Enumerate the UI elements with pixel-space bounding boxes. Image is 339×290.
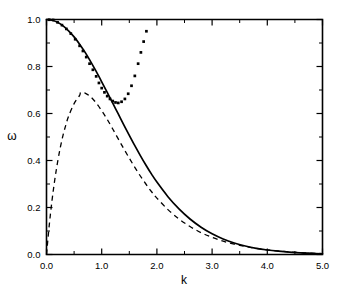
y-tick-label: 0.0 bbox=[27, 249, 40, 260]
data-point bbox=[65, 28, 68, 31]
y-tick-label: 0.8 bbox=[27, 61, 40, 72]
data-point bbox=[52, 19, 55, 22]
x-tick-label: 3.0 bbox=[205, 260, 218, 271]
data-point bbox=[48, 18, 51, 21]
data-point bbox=[114, 101, 117, 104]
data-point bbox=[140, 51, 143, 54]
data-point bbox=[130, 84, 133, 87]
data-point bbox=[124, 98, 127, 101]
axis-frame-path bbox=[47, 20, 323, 255]
data-point bbox=[109, 98, 112, 101]
data-point bbox=[95, 75, 98, 78]
data-point bbox=[74, 38, 77, 41]
data-point bbox=[85, 56, 88, 59]
data-point bbox=[145, 30, 148, 33]
x-tick-label: 4.0 bbox=[261, 260, 274, 271]
x-tick-label: 0.0 bbox=[40, 260, 53, 271]
data-point bbox=[92, 68, 95, 71]
data-point bbox=[98, 82, 101, 85]
series-layer bbox=[47, 18, 323, 254]
y-axis-tick-labels: 0.00.20.40.60.81.0 bbox=[27, 14, 40, 260]
data-point bbox=[82, 50, 85, 53]
plot-canvas: 0.01.02.03.04.05.0 0.00.20.40.60.81.0 k … bbox=[0, 0, 339, 290]
x-axis-minor-ticks bbox=[74, 20, 295, 255]
chart-figure: 0.01.02.03.04.05.0 0.00.20.40.60.81.0 k … bbox=[0, 0, 339, 290]
x-axis-title: k bbox=[181, 273, 188, 287]
y-tick-label: 1.0 bbox=[27, 14, 40, 25]
data-point bbox=[103, 91, 106, 94]
data-point bbox=[111, 100, 114, 103]
x-tick-label: 5.0 bbox=[316, 260, 329, 271]
y-tick-label: 0.6 bbox=[27, 108, 40, 119]
y-axis-title: ω bbox=[7, 129, 16, 143]
data-point bbox=[56, 21, 59, 24]
dotted-points-series bbox=[48, 18, 148, 104]
x-axis-major-ticks bbox=[47, 20, 323, 255]
data-point bbox=[117, 102, 120, 105]
y-tick-label: 0.2 bbox=[27, 202, 40, 213]
axes-frame bbox=[47, 20, 323, 255]
dashed-curve bbox=[47, 92, 323, 254]
y-tick-label: 0.4 bbox=[27, 155, 40, 166]
data-point bbox=[88, 62, 91, 65]
x-axis-tick-labels: 0.01.02.03.04.05.0 bbox=[40, 260, 329, 271]
data-point bbox=[100, 87, 103, 90]
data-point bbox=[142, 40, 145, 43]
y-axis-major-ticks bbox=[47, 20, 323, 255]
data-point bbox=[69, 32, 72, 35]
data-point bbox=[78, 44, 81, 47]
solid-curve bbox=[47, 20, 323, 254]
data-point bbox=[137, 62, 140, 65]
data-point bbox=[61, 24, 64, 27]
data-point bbox=[106, 95, 109, 98]
data-point bbox=[133, 75, 136, 78]
x-tick-label: 1.0 bbox=[95, 260, 108, 271]
y-axis-minor-ticks bbox=[47, 43, 323, 231]
data-point bbox=[120, 100, 123, 103]
x-tick-label: 2.0 bbox=[150, 260, 163, 271]
data-point bbox=[127, 92, 130, 95]
